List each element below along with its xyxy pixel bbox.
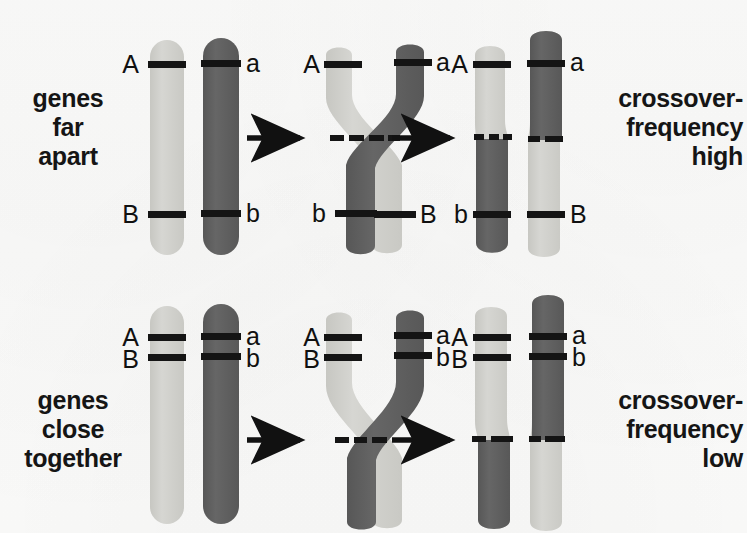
row-genes-far-apart: A a B b A a b B A a b B genes far apart … — [0, 0, 747, 268]
row1-stage1-band-B — [148, 211, 186, 218]
row2-stage2-label-B: B — [286, 347, 320, 372]
caption-genes-close-together: genes close together — [2, 386, 144, 473]
row1-stage3-crossover-mark-1 — [474, 134, 512, 140]
row1-stage3-band-a — [527, 60, 565, 67]
row2-stage3-band-A — [473, 334, 511, 341]
row1-stage3-crossover-mark-2 — [528, 136, 563, 142]
row2-crossover-point — [335, 437, 387, 443]
caption-crossover-frequency-low: crossover- frequency low — [570, 386, 743, 473]
row2-stage1-band-B — [148, 354, 186, 361]
row1-stage1-chromatid-dark — [203, 38, 239, 255]
row1-stage1-label-B: B — [105, 202, 139, 227]
row2-stage2-band-B — [324, 354, 362, 361]
row1-stage1-label-a: a — [246, 51, 276, 76]
row2-stage1-band-a — [201, 333, 241, 340]
row1-stage3-recombinant-1 — [475, 46, 508, 253]
caption-genes-far-apart: genes far apart — [6, 84, 130, 171]
row1-stage3-label-b: b — [434, 202, 468, 227]
row1-stage3-label-A: A — [434, 52, 468, 77]
row1-stage3-band-A — [473, 61, 511, 68]
row2-stage3-label-b: b — [572, 345, 602, 370]
row-genes-close-together: A a B b A a B b A a B b genes close toge… — [0, 268, 747, 533]
row2-stage3-parental-2 — [530, 295, 564, 531]
row1-stage3-label-a: a — [570, 50, 600, 75]
row2-stage1-label-B: B — [105, 347, 139, 372]
row1-stage3-label-B: B — [570, 202, 600, 227]
row2-stage2-band-b — [394, 352, 432, 359]
row1-stage2-label-b: b — [292, 201, 326, 226]
row2-stage3-band-b — [529, 353, 567, 360]
caption-crossover-frequency-high: crossover- frequency high — [575, 84, 743, 171]
row1-stage1-chromatid-light — [150, 40, 184, 255]
row2-stage3-band-a — [529, 333, 567, 340]
row1-stage3-band-b — [473, 211, 511, 218]
row2-stage2-band-A — [324, 334, 362, 341]
row1-stage2-label-A: A — [286, 52, 320, 77]
row1-stage1-band-b — [201, 210, 241, 217]
row1-stage3-band-B — [527, 211, 565, 218]
row1-stage1-band-A — [148, 61, 186, 68]
row1-stage1-band-a — [201, 60, 241, 67]
row1-stage2-band-A — [324, 61, 362, 68]
row1-stage2-band-b — [335, 210, 377, 217]
figure-canvas: A a B b A a b B A a b B genes far apart … — [0, 0, 747, 533]
row1-stage1-label-b: b — [246, 201, 276, 226]
row2-stage1-band-A — [148, 334, 186, 341]
row2-stage3-crossover-mark-1 — [472, 436, 513, 442]
row1-stage2-band-B — [374, 211, 416, 218]
row2-stage1-label-b: b — [246, 346, 276, 371]
row2-stage3-crossover-mark-2 — [529, 436, 565, 442]
row2-stage3-band-B — [473, 354, 511, 361]
row2-stage2-band-a — [394, 332, 432, 339]
row1-stage2-band-a — [394, 59, 432, 66]
row2-stage3-label-B: B — [434, 347, 468, 372]
row2-stage1-band-b — [201, 353, 241, 360]
row1-stage1-label-A: A — [105, 52, 139, 77]
